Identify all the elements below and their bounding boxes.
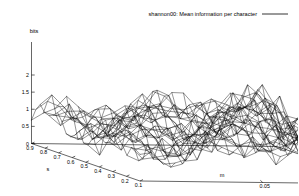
axis-title-label: m	[220, 172, 225, 178]
gnuplot-3d-surface-chart: 21.510.50 0.90.80.70.60.50.40.30.20.1 0.…	[0, 0, 298, 196]
mesh-gridline	[254, 85, 298, 147]
axis-tick-label: 1.5	[22, 89, 29, 95]
axis-tick	[59, 151, 62, 152]
axis-tick-label: 0.5	[22, 123, 29, 129]
axis-tick	[86, 161, 89, 162]
axis-title-label: s	[47, 166, 50, 172]
plot-canvas: 21.510.50 0.90.80.70.60.50.40.30.20.1 0.…	[0, 0, 298, 196]
axis-tick	[99, 166, 102, 167]
axis-tick	[126, 175, 129, 176]
axis-tick-label: 0.2	[121, 178, 128, 184]
axis-tick	[72, 156, 75, 157]
axis-tick-label: 0.6	[67, 159, 74, 165]
surface-mesh	[32, 85, 299, 184]
axis-tick-label: 2	[26, 72, 29, 78]
axis-tick-label: 0.4	[94, 168, 101, 174]
z-axis: 21.510.50	[22, 42, 35, 147]
axis-title-label: bits	[30, 28, 39, 34]
x-axis: 0.90.80.70.60.50.40.30.20.1	[26, 142, 143, 188]
chart-legend: shannon00: Mean information per characte…	[148, 11, 288, 17]
axis-tick-label: 0.3	[108, 173, 115, 179]
y-axis: 0.050	[260, 180, 298, 190]
mesh-gridline	[172, 93, 281, 165]
axis-tick	[113, 170, 116, 171]
axis-tick-label: 1	[26, 106, 29, 112]
axis-tick-label: 0.9	[26, 145, 33, 151]
axis-tick-label: 0.7	[53, 154, 60, 160]
legend-entry-label: shannon00: Mean information per characte…	[148, 11, 257, 17]
axis-tick-label: 0.05	[260, 183, 270, 189]
axis-tick-label: 0.8	[40, 149, 47, 155]
axis-tick-label: 0.5	[81, 163, 88, 169]
axis-tick	[45, 147, 48, 148]
axis-tick-label: 0.1	[135, 182, 142, 188]
